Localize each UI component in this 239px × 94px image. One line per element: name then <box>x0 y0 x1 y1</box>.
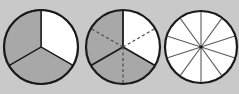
pie-chart-tenths <box>163 0 239 94</box>
pie-chart-thirds <box>0 0 82 94</box>
pie-thirds-svg <box>0 0 82 94</box>
pie-sixths-svg <box>82 0 164 94</box>
pie-tenths-svg <box>163 0 239 94</box>
pie-chart-sixths <box>82 0 164 94</box>
pie-fraction-figure <box>0 0 239 94</box>
pie-tenths-center-dot <box>199 45 202 48</box>
